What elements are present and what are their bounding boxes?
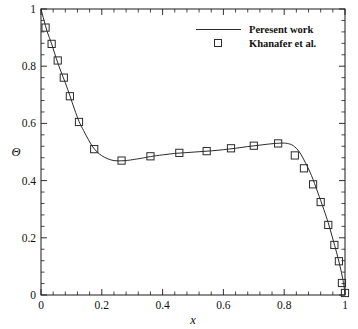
y-tick-label: 0 — [30, 289, 36, 301]
y-tick-label: 0.2 — [22, 232, 37, 244]
x-tick-label: 0.2 — [95, 299, 110, 311]
x-tick-label: 0.6 — [216, 299, 231, 311]
y-axis-title: Θ — [11, 145, 20, 159]
x-axis-title: x — [189, 313, 196, 327]
temperature-profile-chart: 00.20.40.60.81 00.20.40.60.81 x Θ Perese… — [0, 0, 358, 329]
y-tick-label: 0.4 — [22, 175, 37, 187]
legend-label-khanafer: Khanafer et al. — [249, 38, 317, 49]
x-tick-label: 0 — [38, 299, 44, 311]
x-tick-label: 0.8 — [277, 299, 292, 311]
chart-figure: 00.20.40.60.81 00.20.40.60.81 x Θ Perese… — [0, 0, 358, 329]
x-tick-label: 1 — [342, 299, 348, 311]
y-tick-label: 0.6 — [22, 117, 37, 129]
x-tick-label: 0.4 — [155, 299, 170, 311]
y-tick-label: 0.8 — [22, 60, 37, 72]
legend-label-peresent-work: Peresent work — [249, 24, 313, 35]
y-tick-label: 1 — [30, 3, 36, 15]
